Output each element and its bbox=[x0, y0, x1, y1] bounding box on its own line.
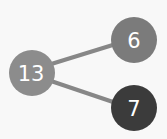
whole-node: 13 bbox=[9, 50, 55, 96]
connector-whole-to-part-2 bbox=[48, 80, 116, 103]
part-1-value: 6 bbox=[127, 29, 140, 53]
part-node-2: 7 bbox=[111, 85, 157, 131]
part-node-1: 6 bbox=[111, 17, 157, 63]
whole-value: 13 bbox=[18, 62, 45, 86]
part-2-value: 7 bbox=[127, 97, 140, 121]
diagram-canvas: 13 6 7 bbox=[0, 0, 167, 139]
connector-whole-to-part-1 bbox=[48, 44, 116, 65]
number-bond-diagram: 13 6 7 bbox=[0, 0, 167, 139]
